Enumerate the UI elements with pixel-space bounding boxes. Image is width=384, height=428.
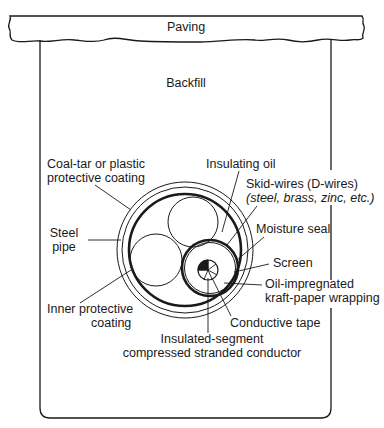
cable-core-left xyxy=(130,234,182,286)
svg-text:Steel: Steel xyxy=(50,226,79,240)
svg-text:Insulated-segment: Insulated-segment xyxy=(161,332,264,346)
label-inner-coating: Inner protective coating xyxy=(47,270,133,330)
pipe-type-cable-diagram: Paving Backfill Coal-tar or plasti xyxy=(0,0,384,428)
label-steel-pipe: Steel pipe xyxy=(50,226,121,254)
svg-text:Inner protective: Inner protective xyxy=(47,302,133,316)
svg-text:Screen: Screen xyxy=(273,256,313,270)
svg-text:protective coating: protective coating xyxy=(47,171,145,185)
svg-text:kraft-paper wrapping: kraft-paper wrapping xyxy=(265,291,380,305)
filled-segment xyxy=(198,260,208,270)
paving-label: Paving xyxy=(167,20,205,34)
svg-text:Oil-impregnated: Oil-impregnated xyxy=(265,277,354,291)
svg-text:Moisture seal: Moisture seal xyxy=(256,222,330,236)
stranded-conductor xyxy=(198,260,218,280)
svg-text:compressed stranded conductor: compressed stranded conductor xyxy=(123,346,302,360)
label-coal-tar-coating: Coal-tar or plastic protective coating xyxy=(47,157,145,210)
label-screen: Screen xyxy=(234,256,313,272)
paving-layer: Paving xyxy=(9,16,365,42)
svg-text:pipe: pipe xyxy=(52,240,76,254)
backfill-label: Backfill xyxy=(166,76,206,90)
label-oil-paper: Oil-impregnated kraft-paper wrapping xyxy=(224,277,380,305)
svg-text:coating: coating xyxy=(91,316,131,330)
svg-text:Skid-wires (D-wires): Skid-wires (D-wires) xyxy=(246,177,358,191)
pipe-assembly xyxy=(117,182,253,318)
svg-text:Conductive tape: Conductive tape xyxy=(230,316,320,330)
svg-text:(steel, brass, zinc, etc.): (steel, brass, zinc, etc.) xyxy=(246,191,375,205)
svg-text:Coal-tar or plastic: Coal-tar or plastic xyxy=(47,157,145,171)
svg-text:Insulating oil: Insulating oil xyxy=(206,157,276,171)
